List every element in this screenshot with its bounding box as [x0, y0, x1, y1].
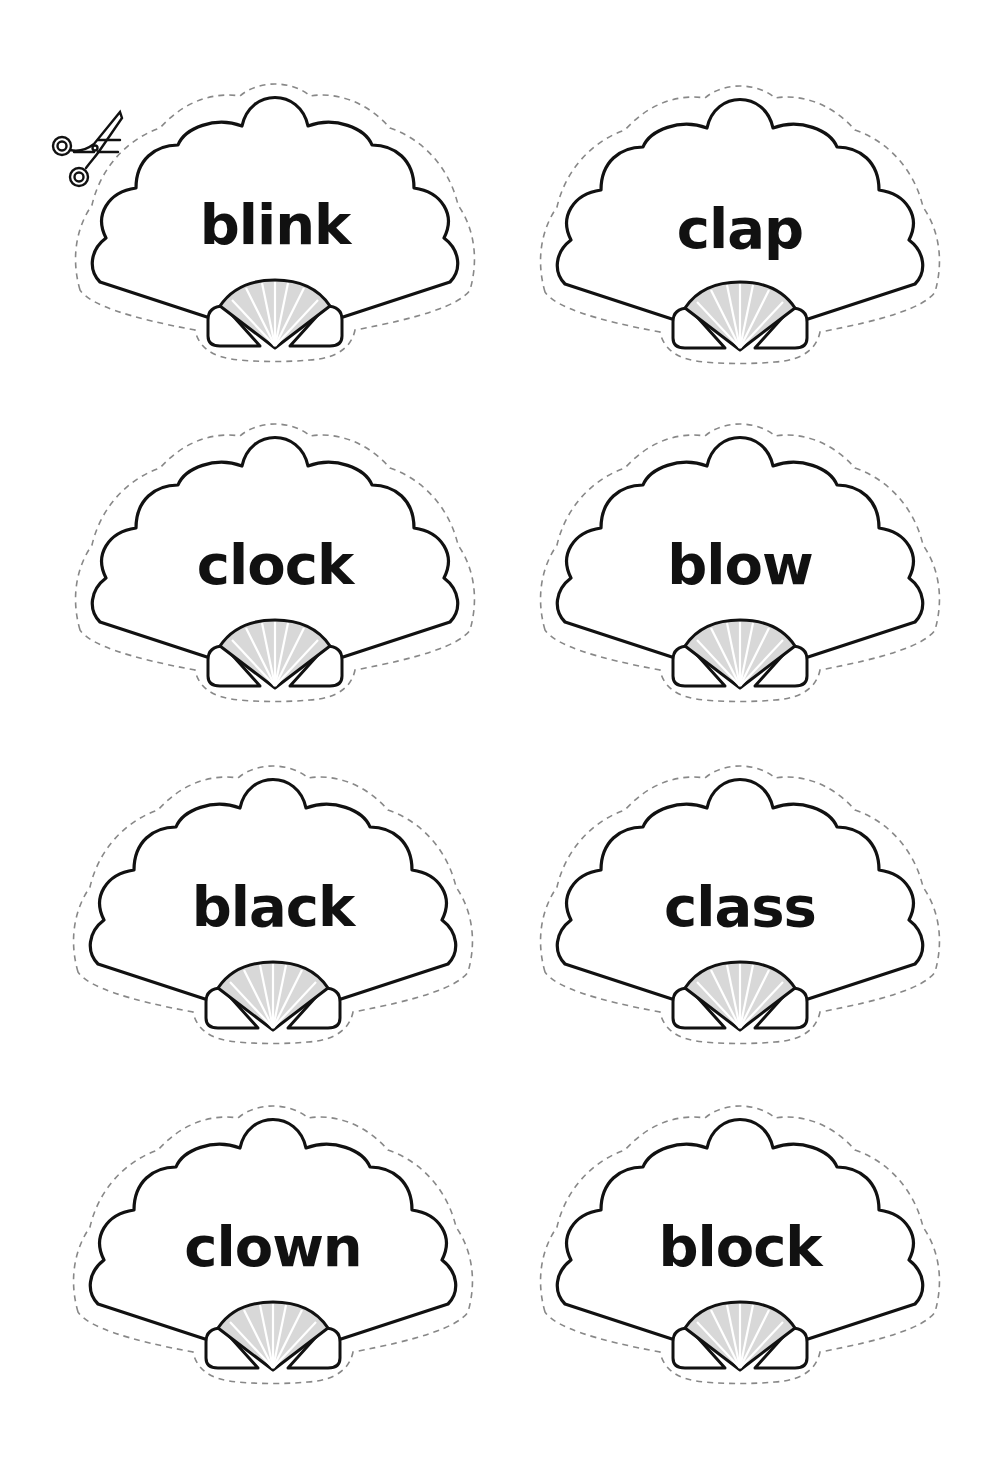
- word-card: clown: [83, 1115, 463, 1395]
- word-card: class: [550, 775, 930, 1055]
- word-card: blow: [550, 433, 930, 713]
- card-word: block: [550, 1219, 930, 1275]
- word-card: black: [83, 775, 463, 1055]
- card-word: clown: [83, 1219, 463, 1275]
- card-word: blink: [85, 197, 465, 253]
- card-word: black: [83, 879, 463, 935]
- card-word: clock: [85, 537, 465, 593]
- card-word: class: [550, 879, 930, 935]
- card-word: blow: [550, 537, 930, 593]
- word-card: block: [550, 1115, 930, 1395]
- word-card: blink: [85, 93, 465, 373]
- word-card: clock: [85, 433, 465, 713]
- card-word: clap: [550, 201, 930, 257]
- word-card: clap: [550, 95, 930, 375]
